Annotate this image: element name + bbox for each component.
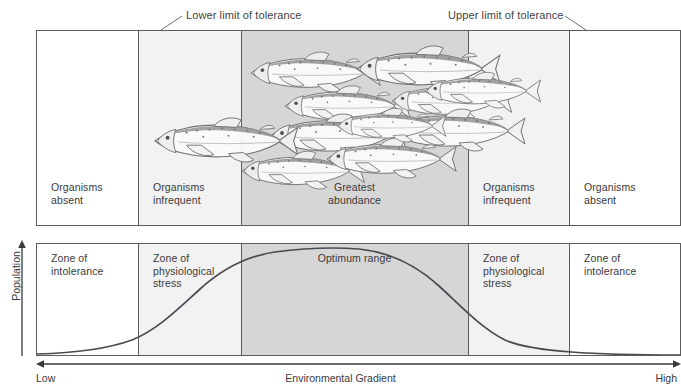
zone-label-left-intolerance: Zone of intolerance <box>51 252 143 277</box>
zone-label-right-stress: Zone of physiological stress <box>483 252 575 290</box>
zone-label-left-stress: Zone of physiological stress <box>153 252 245 290</box>
lower-limit-leader-line <box>161 16 182 30</box>
zone-label-greatest-abundance: Greatest abundance <box>241 181 468 206</box>
x-axis-high-label: High <box>655 372 677 384</box>
zone-label-right-intolerance: Zone of intolerance <box>584 252 676 277</box>
y-axis-label: Population <box>10 236 22 316</box>
population-curve-panel: Zone of intolerance Zone of physiologica… <box>36 243 681 356</box>
lower-limit-of-tolerance-label: Lower limit of tolerance <box>186 9 302 21</box>
zone-label-right-infrequent: Organisms infrequent <box>483 181 575 206</box>
fish <box>155 118 298 162</box>
abundance-panel: Organisms absent Organisms infrequent Gr… <box>36 30 681 226</box>
x-axis-arrow <box>36 358 681 370</box>
zone-label-left-absent: Organisms absent <box>51 181 143 206</box>
zone-label-optimum-range: Optimum range <box>241 252 468 265</box>
upper-limit-leader-line <box>565 16 586 30</box>
zone-label-left-infrequent: Organisms infrequent <box>153 181 245 206</box>
x-axis-title: Environmental Gradient <box>0 372 681 384</box>
zone-label-right-absent: Organisms absent <box>584 181 676 206</box>
tolerance-range-figure: Lower limit of tolerance Upper limit of … <box>0 0 681 388</box>
upper-limit-of-tolerance-label: Upper limit of tolerance <box>448 9 564 21</box>
